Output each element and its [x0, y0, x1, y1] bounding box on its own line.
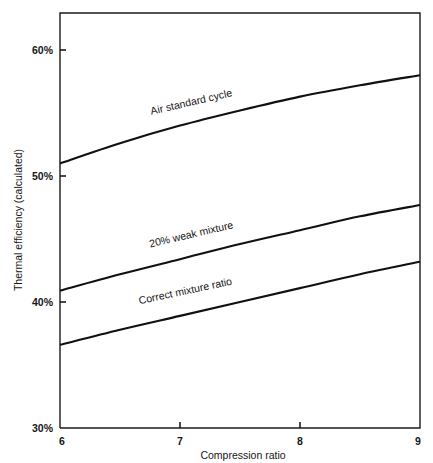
y-tick-label-40: 40%: [32, 296, 54, 308]
x-tick-label-6: 6: [59, 435, 65, 447]
y-axis-tick-labels: 60% 50% 40% 30%: [32, 44, 54, 434]
x-axis-tick-labels: 6 7 8 9: [59, 435, 421, 447]
chart-figure: 60% 50% 40% 30% 6 7 8 9 Compression rati…: [0, 0, 433, 463]
x-tick-label-7: 7: [177, 435, 183, 447]
x-axis-title: Compression ratio: [200, 449, 285, 461]
y-tick-label-30: 30%: [32, 422, 54, 434]
y-axis-title: Thermal efficiency (calculated): [12, 149, 24, 291]
x-tick-label-9: 9: [415, 435, 421, 447]
thermal-efficiency-line-chart: 60% 50% 40% 30% 6 7 8 9 Compression rati…: [0, 0, 433, 463]
plot-background: [60, 13, 420, 428]
y-tick-label-60: 60%: [32, 44, 54, 56]
x-tick-label-8: 8: [297, 435, 303, 447]
y-tick-label-50: 50%: [32, 170, 54, 182]
